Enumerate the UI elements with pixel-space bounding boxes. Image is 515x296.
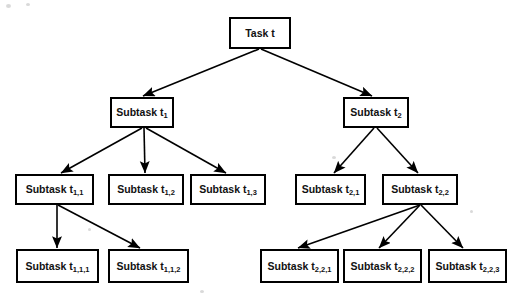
scan-artifact [26, 3, 30, 6]
task-decomposition-diagram: Task tSubtask t1Subtask t2Subtask t1,1Su… [0, 0, 515, 296]
edge-t1-to-t11 [61, 128, 142, 173]
node-layer: Task tSubtask t1Subtask t2Subtask t1,1Su… [16, 18, 506, 282]
edge-t1-to-t12 [144, 128, 145, 173]
node-t1[interactable]: Subtask t1 [111, 98, 173, 127]
node-t2[interactable]: Subtask t2 [344, 98, 408, 127]
edge-t2-to-t22 [377, 128, 418, 173]
scan-artifact [88, 228, 91, 231]
edge-t2-to-t21 [334, 128, 374, 173]
node-t13[interactable]: Subtask t1,3 [191, 175, 265, 204]
scan-artifact [200, 290, 204, 293]
tree-canvas: Task tSubtask t1Subtask t2Subtask t1,1Su… [0, 0, 515, 296]
edge-t22-to-t223 [421, 205, 463, 248]
edge-t22-to-t221 [298, 205, 420, 248]
node-t22[interactable]: Subtask t2,2 [383, 175, 457, 204]
edge-root-to-t1 [143, 49, 259, 96]
node-t221[interactable]: Subtask t2,2,1 [261, 250, 338, 282]
node-t21[interactable]: Subtask t2,1 [296, 175, 365, 204]
node-t12[interactable]: Subtask t1,2 [109, 175, 183, 204]
edge-root-to-t2 [261, 49, 372, 96]
node-t223[interactable]: Subtask t2,2,3 [429, 250, 506, 282]
edge-layer [57, 49, 463, 248]
scan-artifact [470, 210, 473, 213]
node-t11[interactable]: Subtask t1,1 [16, 175, 93, 204]
edge-t11-to-t112 [58, 205, 140, 248]
edge-t1-to-t13 [146, 128, 226, 173]
node-t112[interactable]: Subtask t1,1,2 [109, 250, 188, 282]
scan-artifact [332, 156, 336, 159]
node-root[interactable]: Task t [230, 18, 290, 48]
scan-artifact [6, 4, 11, 8]
node-t111[interactable]: Subtask t1,1,1 [17, 250, 98, 282]
node-label-root: Task t [245, 26, 275, 38]
node-t222[interactable]: Subtask t2,2,2 [344, 250, 421, 282]
